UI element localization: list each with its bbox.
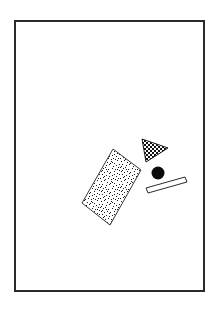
solid-circle — [152, 167, 165, 180]
figure-canvas: Abstract geometric shapes figure — [0, 0, 218, 310]
figure-svg — [0, 0, 218, 310]
